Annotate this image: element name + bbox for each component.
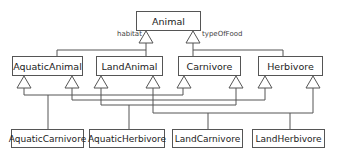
- class-name: LandCarnivore: [175, 134, 240, 144]
- typeoffood-generalization-arrow: [186, 31, 200, 43]
- discriminator-typeoffood-label: typeOfFood: [202, 30, 242, 38]
- class-animal[interactable]: Animal: [136, 11, 201, 31]
- class-land-animal[interactable]: LandAnimal: [96, 56, 163, 76]
- class-carnivore[interactable]: Carnivore: [178, 56, 241, 76]
- class-aquatic-carnivore[interactable]: AquaticCarnivore: [11, 129, 84, 148]
- class-name: LandAnimal: [101, 61, 157, 72]
- class-name: AquaticCarnivore: [9, 134, 86, 144]
- class-name: AquaticHerbivore: [88, 134, 166, 144]
- class-name: AquaticAnimal: [13, 61, 82, 72]
- class-aquatic-animal[interactable]: AquaticAnimal: [12, 56, 83, 76]
- class-name: LandHerbivore: [255, 134, 321, 144]
- class-name: Carnivore: [187, 61, 233, 72]
- class-name: Animal: [152, 16, 185, 27]
- discriminator-habitat-label: habitat: [117, 30, 142, 38]
- class-name: Herbivore: [267, 61, 314, 72]
- class-land-carnivore[interactable]: LandCarnivore: [172, 129, 243, 148]
- class-aquatic-herbivore[interactable]: AquaticHerbivore: [89, 129, 165, 148]
- class-land-herbivore[interactable]: LandHerbivore: [252, 129, 325, 148]
- class-herbivore[interactable]: Herbivore: [258, 56, 323, 76]
